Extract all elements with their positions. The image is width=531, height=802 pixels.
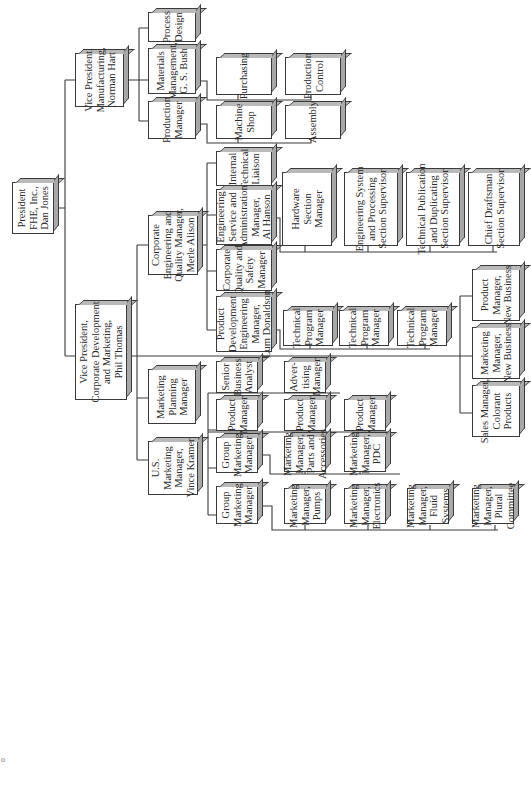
node-vp-corporate-development: Vice President, Corporate Development an… — [75, 304, 127, 400]
node-label: Marketing Manager, Electronics — [348, 482, 383, 529]
stray-mark: o — [1, 755, 5, 764]
node-label: Product Manager, New Business — [479, 265, 514, 325]
node-label: Production Manager — [161, 97, 184, 143]
node-label: Senior Business Analyst — [220, 358, 255, 395]
node-engineering-system-processing: Engineering System and Processing Sectio… — [344, 172, 398, 246]
node-mm-electronics: Marketing Manager, Electronics — [344, 488, 386, 524]
node-label: Product Manager — [354, 396, 377, 433]
node-product-manager-new-business: Product Manager, New Business — [472, 269, 520, 321]
node-production-manager: Production Manager — [148, 101, 196, 139]
node-label: Assembly — [307, 101, 319, 143]
node-marketing-manager-new-business: Marketing Manager, New Business — [472, 327, 520, 379]
node-assembly: Assembly — [285, 105, 341, 139]
node-production-control: Production Control — [285, 57, 341, 95]
node-label: Production Control — [302, 53, 325, 99]
node-sales-manager-colorant: Sales Manager, Colorant Products — [472, 385, 520, 437]
node-vp-manufacturing: Vice President, Manufacturing, Norman Ha… — [75, 53, 124, 107]
node-machine-shop: Machine Shop — [216, 105, 272, 139]
node-group-marketing-manager-1: Group Marketing Manager — [216, 437, 258, 473]
node-technical-program-manager-2: Technical Program Manager — [339, 310, 389, 346]
node-label: Machine Shop — [233, 104, 256, 141]
node-senior-business-analyst: Senior Business Analyst — [216, 361, 258, 393]
node-label: Process Design — [161, 11, 184, 43]
node-hardware-section-manager: Hardware Section Manager — [282, 172, 332, 246]
org-chart: President FHE, Inc., Dan Jones Vice Pres… — [0, 0, 531, 802]
node-materials-management: Materials Management, G. S. Bush — [148, 48, 196, 94]
node-technical-program-manager-1: Technical Program Manager — [283, 310, 333, 346]
node-label: Marketing Manager, Parts and Accessories — [282, 429, 328, 479]
node-technical-publication-duplicating: Technical Publication and Duplicating Se… — [406, 172, 460, 246]
node-label: Vice President, Corporate Development an… — [78, 301, 124, 402]
node-label: Product Development Engineering Manager,… — [215, 290, 273, 358]
node-engineering-service-admin: Engineering Service and Administration M… — [216, 189, 272, 245]
node-label: Internal Technical Liaison — [227, 148, 262, 189]
node-product-manager-3: Product Manager — [344, 399, 386, 431]
node-technical-program-manager-3: Technical Program Manager — [397, 310, 447, 346]
node-advertising-manager: Adver- tising Manager — [284, 361, 326, 393]
node-label: Technical Publication and Duplicating Se… — [416, 163, 451, 254]
node-label: President FHE, Inc., Dan Jones — [16, 186, 51, 230]
node-label: Group Marketing Manager — [220, 483, 255, 527]
node-mm-fluid-systems: Marketing Manager, Fluid Systems — [407, 488, 449, 524]
node-label: Adver- tising Manager — [288, 358, 323, 395]
node-label: Technical Program Manager — [405, 308, 440, 349]
node-label: Corporate Quality and Safety Manager — [221, 245, 267, 294]
node-label: U.S. Marketing Manager, Vince Kramer — [150, 438, 196, 497]
node-label: Marketing Manager, New Business — [479, 323, 514, 383]
node-label: Engineering System and Processing Sectio… — [354, 167, 389, 252]
node-purchasing: Purchasing — [216, 57, 272, 95]
node-product-manager-1: Product Manager — [216, 399, 258, 431]
node-label: Technical Program Manager — [347, 308, 382, 349]
node-label: Product Manager — [226, 396, 249, 433]
node-label: Sales Manager, Colorant Products — [479, 379, 514, 443]
node-label: Marketing Manager, Fluid Systems — [405, 484, 451, 528]
node-label: Group Marketing Manager — [220, 433, 255, 477]
node-label: Corporate Engineering and Quality Manage… — [150, 208, 196, 282]
node-internal-technical-liaison: Internal Technical Liaison — [216, 151, 272, 186]
node-product-manager-2: Product Manager — [284, 399, 326, 431]
node-label: Marketing Planning Manager — [155, 375, 190, 419]
node-label: Marketing Manager, PDC — [348, 432, 383, 476]
node-president: President FHE, Inc., Dan Jones — [12, 182, 54, 234]
node-label: Hardware Section Manager — [290, 188, 325, 229]
node-mm-pumps: Marketing Manager, Pumps — [284, 488, 326, 524]
node-chief-draftsman: Chief Draftsman Section Supervisor — [468, 172, 520, 246]
node-process-design: Process Design — [148, 12, 196, 42]
node-mm-parts-accessories: Marketing Manager, Parts and Accessories — [284, 436, 326, 472]
node-label: Vice President, Manufacturing, Norman Ha… — [82, 47, 117, 112]
node-label: Marketing Manager, Plural Committee — [470, 483, 516, 530]
node-label: Marketing Manager, Pumps — [288, 484, 323, 528]
node-corporate-quality-safety: Corporate Quality and Safety Manager — [216, 249, 272, 291]
node-marketing-planning-manager: Marketing Planning Manager — [148, 369, 196, 424]
node-corporate-engineering-quality: Corporate Engineering and Quality Manage… — [148, 215, 198, 275]
node-us-marketing-manager: U.S. Marketing Manager, Vince Kramer — [148, 441, 198, 495]
node-mm-pdc: Marketing Manager, PDC — [344, 436, 386, 472]
node-group-marketing-manager-2: Group Marketing Manager — [216, 486, 258, 524]
node-product-development-engineering: Product Development Engineering Manager,… — [216, 296, 272, 352]
node-label: Engineering Service and Administration M… — [215, 185, 273, 249]
node-label: Chief Draftsman Section Supervisor — [483, 169, 506, 249]
node-label: Technical Program Manager — [291, 308, 326, 349]
node-label: Materials Management, G. S. Bush — [155, 42, 190, 99]
node-label: Purchasing — [238, 53, 250, 100]
node-mm-plural-committee: Marketing Manager, Plural Committee — [472, 488, 514, 524]
